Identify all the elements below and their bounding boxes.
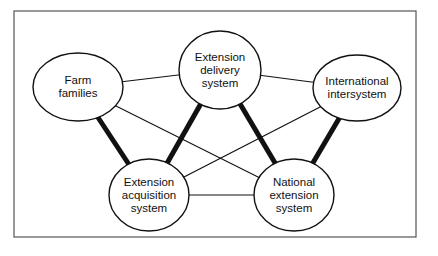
- node-label-line: extension: [269, 189, 318, 202]
- node-label-line: system: [269, 202, 318, 215]
- node-label-national: Nationalextensionsystem: [269, 176, 318, 215]
- node-label-line: Extension: [122, 176, 176, 189]
- node-label-line: Extension: [195, 51, 246, 64]
- node-label-line: acquisition: [122, 189, 176, 202]
- node-label-farm: Farmfamilies: [59, 74, 98, 100]
- node-label-line: system: [195, 77, 246, 90]
- node-label-line: system: [122, 202, 176, 215]
- node-label-line: National: [269, 176, 318, 189]
- node-label-international: Internationalintersystem: [325, 75, 388, 101]
- network-diagram: [0, 0, 438, 256]
- node-label-line: Farm: [59, 74, 98, 87]
- node-label-line: delivery: [195, 64, 246, 77]
- node-label-line: International: [325, 75, 388, 88]
- node-label-line: families: [59, 87, 98, 100]
- node-label-delivery: Extensiondeliverysystem: [195, 51, 246, 90]
- node-label-line: intersystem: [325, 88, 388, 101]
- node-label-acquisition: Extensionacquisitionsystem: [122, 176, 176, 215]
